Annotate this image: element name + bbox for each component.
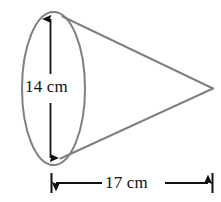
cone-outline-icon	[61, 17, 214, 159]
cone-lower-slant-line	[61, 89, 214, 159]
width-dimension-label: 17 cm	[105, 174, 148, 191]
cone-figure-canvas	[0, 0, 221, 202]
height-dimension-label: 14 cm	[25, 78, 68, 95]
cone-dimension-diagram: 14 cm 17 cm	[0, 0, 221, 202]
